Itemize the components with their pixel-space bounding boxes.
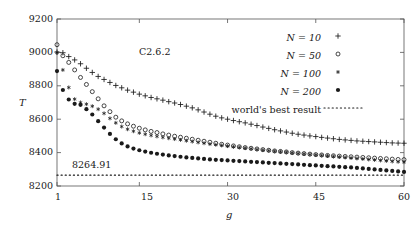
data-point: [113, 83, 118, 88]
data-point: [278, 128, 283, 133]
data-point: [102, 104, 106, 108]
x-tick-label-15: 15: [137, 192, 157, 202]
legend-marker-star: [336, 70, 339, 74]
data-point: [372, 167, 376, 171]
data-point: [336, 70, 339, 74]
x-axis-title: g: [226, 210, 232, 220]
y-tick-label-9000: 9000: [15, 47, 53, 57]
data-point: [320, 164, 324, 168]
data-point: [261, 160, 265, 164]
data-point: [208, 157, 212, 161]
data-point: [295, 132, 300, 137]
data-point: [225, 117, 230, 122]
data-point: [149, 129, 153, 133]
data-point: [254, 123, 259, 128]
data-point: [219, 115, 224, 120]
data-point: [73, 102, 77, 106]
chart-figure: 9200 9000 8800 8600 8400 8200 1 15 30 45…: [0, 0, 420, 234]
data-point: [125, 87, 130, 92]
y-tick-label-8600: 8600: [15, 114, 53, 124]
data-point: [61, 68, 64, 72]
x-tick-label-45: 45: [309, 192, 329, 202]
data-point: [338, 155, 341, 159]
x-tick-label-1: 1: [48, 192, 68, 202]
data-point: [131, 89, 136, 94]
data-point: [161, 135, 164, 139]
data-point: [385, 159, 388, 163]
data-point: [155, 152, 159, 156]
data-point: [267, 161, 271, 165]
data-point: [78, 61, 83, 66]
data-point: [308, 163, 312, 167]
data-point: [96, 119, 100, 123]
series-n-50: [55, 43, 406, 162]
data-point: [249, 160, 253, 164]
data-point: [149, 133, 152, 137]
data-point: [101, 77, 106, 82]
legend-label-n-100: N = 100: [216, 69, 321, 79]
data-point: [61, 88, 65, 92]
data-point: [119, 85, 124, 90]
data-point: [91, 104, 94, 108]
data-point: [120, 125, 123, 129]
data-point: [336, 88, 340, 92]
data-point: [214, 158, 218, 162]
data-point: [266, 126, 271, 131]
data-point: [226, 144, 229, 148]
y-tick-label-8800: 8800: [15, 80, 53, 90]
data-point: [390, 159, 393, 163]
data-point: [290, 162, 294, 166]
data-point: [396, 169, 400, 173]
data-point: [120, 119, 124, 123]
data-point: [73, 68, 77, 72]
data-point: [173, 154, 177, 158]
data-point: [390, 140, 395, 145]
data-point: [85, 102, 88, 106]
data-point: [108, 132, 112, 136]
data-point: [143, 149, 147, 153]
data-point: [184, 155, 188, 159]
data-point: [84, 82, 88, 86]
data-point: [372, 139, 377, 144]
data-point: [202, 157, 206, 161]
data-point: [67, 97, 71, 101]
best-result-value-label: 8264.91: [72, 160, 111, 170]
data-point: [126, 122, 130, 126]
data-point: [361, 166, 365, 170]
data-point: [343, 155, 346, 159]
data-point: [343, 165, 347, 169]
data-point: [319, 135, 324, 140]
data-point: [255, 160, 259, 164]
data-point: [96, 107, 99, 111]
data-point: [143, 132, 146, 136]
data-point: [337, 165, 341, 169]
legend-label-worlds-best-result: world's best result: [196, 105, 321, 115]
data-point: [149, 151, 153, 155]
data-point: [237, 119, 242, 124]
data-point: [360, 139, 365, 144]
data-point: [167, 153, 171, 157]
data-point: [231, 159, 235, 163]
y-tick-label-8400: 8400: [15, 147, 53, 157]
data-point: [220, 158, 224, 162]
data-point: [72, 57, 77, 62]
data-point: [66, 54, 71, 59]
data-point: [178, 155, 182, 159]
data-point: [108, 116, 111, 120]
data-point: [243, 159, 247, 163]
data-point: [354, 138, 359, 143]
legend-marker-filled-circle: [336, 88, 340, 92]
data-point: [331, 164, 335, 168]
data-point: [238, 145, 241, 149]
data-point: [138, 131, 141, 135]
data-point: [114, 121, 117, 125]
data-point: [332, 154, 335, 158]
data-point: [384, 140, 389, 145]
data-point: [284, 162, 288, 166]
data-point: [90, 70, 95, 75]
data-point: [148, 95, 153, 100]
data-point: [137, 148, 141, 152]
data-point: [395, 140, 400, 145]
data-point: [335, 33, 340, 38]
data-point: [366, 139, 371, 144]
